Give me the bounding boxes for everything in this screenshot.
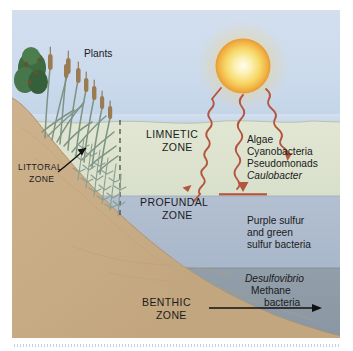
plants-label: Plants [84, 48, 112, 59]
profundal-organism-1: and green [247, 227, 293, 238]
profundal-organism-2: sulfur bacteria [247, 239, 311, 250]
limnetic-organism-3: Caulobacter [247, 170, 303, 181]
benthic-organism-0: Desulfovibrio [245, 273, 304, 284]
littoral-zone-label-line2: ZONE [29, 174, 54, 184]
limnetic-zone-label-line2: ZONE [162, 141, 193, 153]
littoral-zone-label-line1: LITTORAL [18, 162, 62, 172]
benthic-zone-label-line1: BENTHIC [142, 296, 191, 308]
limnetic-organism-2: Pseudomonads [247, 158, 318, 169]
limnetic-zone-label-line1: LIMNETIC [146, 128, 198, 140]
benthic-organism-1: Methane [251, 285, 291, 296]
profundal-organism-0: Purple sulfur [247, 215, 305, 226]
diagram-page: Plants LITTORAL ZONE LIMNETIC ZONE PROFU… [0, 0, 353, 351]
limnetic-organism-1: Cyanobacteria [247, 146, 313, 157]
light-penetration-bar [219, 193, 267, 195]
profundal-zone-label-line1: PROFUNDAL [140, 196, 208, 208]
sun-icon [216, 39, 271, 94]
bottom-dotted-rule [14, 344, 340, 347]
sky-background [12, 10, 340, 122]
lake-zones-figure: Plants LITTORAL ZONE LIMNETIC ZONE PROFU… [12, 10, 340, 338]
benthic-zone-label-line2: ZONE [156, 309, 187, 321]
limnetic-organism-0: Algae [247, 134, 273, 145]
profundal-zone-label-line2: ZONE [162, 209, 193, 221]
benthic-organism-2: bacteria [264, 297, 301, 308]
